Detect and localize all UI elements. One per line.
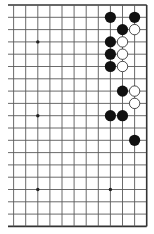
black-stone (129, 135, 140, 146)
white-stone (117, 61, 127, 71)
black-stone (117, 86, 128, 97)
black-stone (117, 24, 128, 35)
white-stone (129, 98, 139, 108)
white-stone (129, 24, 139, 34)
black-stone (105, 36, 116, 47)
star-point (36, 40, 39, 43)
go-board (0, 0, 154, 234)
white-stone (117, 37, 127, 47)
star-point (109, 188, 112, 191)
white-stone (129, 86, 139, 96)
black-stone (129, 12, 140, 23)
black-stone (117, 110, 128, 121)
black-stone (105, 49, 116, 60)
star-point (36, 114, 39, 117)
black-stone (105, 12, 116, 23)
star-point (36, 188, 39, 191)
black-stone (105, 61, 116, 72)
white-stone (117, 49, 127, 59)
black-stone (105, 110, 116, 121)
